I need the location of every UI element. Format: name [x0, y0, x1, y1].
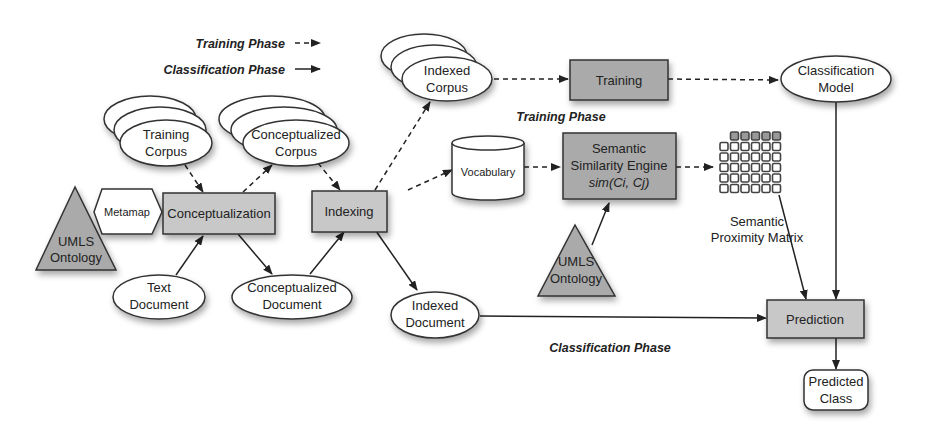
indexed-corpus-label-2: Corpus: [426, 80, 468, 95]
matrix-cell: [741, 164, 749, 172]
text-document-label-1: Text: [147, 280, 171, 295]
matrix-cell: [731, 164, 739, 172]
conceptualized-document-label-1: Conceptualized: [247, 280, 337, 295]
classification-phase-annotation: Classification Phase: [549, 341, 671, 355]
indexed-document-label-1: Indexed: [412, 298, 458, 313]
matrix-cell: [720, 164, 728, 172]
matrix-cell: [752, 185, 760, 193]
matrix-cell: [731, 143, 739, 151]
indexed-document-label-2: Document: [405, 315, 465, 330]
edge-text-document-to-conceptualization: [176, 236, 203, 275]
matrix-cell: [773, 174, 781, 182]
matrix-cell: [762, 164, 770, 172]
umls-left-label-2: Ontology: [50, 250, 103, 265]
matrix-cell: [762, 153, 770, 161]
indexing-label: Indexing: [324, 204, 373, 219]
umls-right-label-1: UMLS: [558, 254, 594, 269]
pipeline-diagram: Training Phase Classification Phase Trai…: [0, 0, 929, 434]
metamap-label: Metamap: [104, 206, 150, 218]
matrix-cell: [773, 143, 781, 151]
legend: Training Phase Classification Phase: [163, 37, 320, 77]
umls-left-label-1: UMLS: [58, 234, 94, 249]
edge-indexing-to-vocabulary: [408, 170, 452, 190]
training-corpus-label-1: Training: [143, 127, 189, 142]
matrix-cell: [720, 174, 728, 182]
matrix-cell: [720, 143, 728, 151]
matrix-cell: [741, 185, 749, 193]
classification-model-label-2: Model: [818, 80, 854, 95]
matrix-cell: [752, 174, 760, 182]
edge-training-corpus-to-conceptualization: [185, 165, 203, 192]
edge-umls-to-sse: [592, 203, 609, 245]
training-phase-annotation: Training Phase: [516, 110, 605, 124]
matrix-cell: [741, 174, 749, 182]
matrix-cell: [741, 132, 749, 140]
matrix-cell: [731, 132, 739, 140]
predicted-class-label-1: Predicted: [809, 374, 864, 389]
umls-right-label-2: Ontology: [550, 271, 603, 286]
node-semantic-proximity-matrix: [720, 132, 781, 193]
matrix-cell: [773, 132, 781, 140]
matrix-cell: [762, 174, 770, 182]
matrix-cell: [731, 153, 739, 161]
matrix-cell: [752, 153, 760, 161]
classification-model-label-1: Classification: [798, 63, 875, 78]
matrix-cell: [762, 185, 770, 193]
edge-indexed-document-to-prediction: [480, 316, 766, 318]
matrix-cell: [773, 185, 781, 193]
edge-conceptualized-document-to-indexing: [310, 232, 344, 274]
edge-conceptualization-to-conceptualized-document: [238, 234, 272, 274]
matrix-cell: [773, 153, 781, 161]
matrix-cell: [720, 153, 728, 161]
edge-indexing-to-indexed-document: [376, 231, 417, 290]
matrix-cell: [720, 185, 728, 193]
training-label: Training: [596, 73, 642, 88]
matrix-cell: [752, 132, 760, 140]
text-document-label-2: Document: [129, 297, 189, 312]
edge-matrix-to-prediction: [779, 195, 806, 299]
sse-label-2: Similarity Engine: [571, 158, 668, 173]
matrix-cell: [773, 164, 781, 172]
edge-indexing-to-indexed-corpus: [375, 102, 430, 190]
matrix-cell: [762, 132, 770, 140]
prediction-label: Prediction: [786, 312, 844, 327]
conceptualized-corpus-label-1: Conceptualized: [251, 127, 341, 142]
predicted-class-label-2: Class: [820, 391, 853, 406]
matrix-cell: [752, 164, 760, 172]
conceptualized-corpus-label-2: Corpus: [275, 144, 317, 159]
conceptualized-document-label-2: Document: [262, 297, 322, 312]
matrix-cell: [762, 143, 770, 151]
matrix-cell: [731, 174, 739, 182]
matrix-cell: [741, 143, 749, 151]
matrix-cell: [731, 185, 739, 193]
edge-training-to-classification-model: [668, 79, 778, 80]
sse-label-3: sim(Ci, Cj): [589, 175, 650, 190]
training-corpus-label-2: Corpus: [145, 144, 187, 159]
matrix-label-1: Semantic: [730, 214, 785, 229]
conceptualization-label: Conceptualization: [167, 206, 270, 221]
matrix-label-2: Proximity Matrix: [711, 230, 804, 245]
sse-label-1: Semantic: [592, 141, 647, 156]
edge-conceptualization-to-conceptualized-corpus: [243, 165, 272, 192]
matrix-cell: [752, 143, 760, 151]
matrix-cell: [741, 153, 749, 161]
indexed-corpus-label-1: Indexed: [424, 63, 470, 78]
edge-conceptualized-corpus-to-indexing: [318, 163, 340, 190]
legend-training-label: Training Phase: [196, 37, 285, 51]
legend-classification-label: Classification Phase: [163, 63, 285, 77]
vocabulary-label: Vocabulary: [461, 166, 516, 178]
